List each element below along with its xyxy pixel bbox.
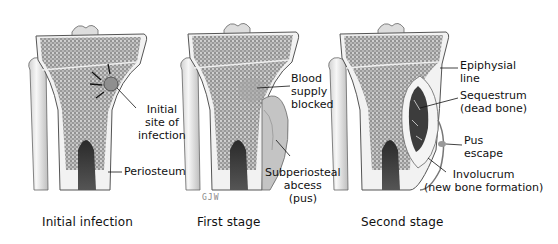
label-blood-supply: Blood supply blocked — [291, 72, 334, 111]
label-line: Pus — [464, 134, 503, 147]
label-line: Initial — [138, 103, 186, 116]
caption-second-stage: Second stage — [361, 215, 444, 229]
osteomyelitis-illustration — [0, 0, 558, 244]
panel-second-bone — [329, 23, 462, 190]
label-line: site of — [138, 116, 186, 129]
label-line: Subperiosteal — [265, 166, 341, 179]
caption-initial-infection: Initial infection — [42, 215, 133, 229]
label-line: Blood — [291, 72, 334, 85]
label-sequestrum: Sequestrum (dead bone) — [460, 89, 527, 115]
label-periosteum: Periosteum — [124, 165, 186, 178]
label-line: abcess — [265, 179, 341, 192]
label-line: blocked — [291, 98, 334, 111]
panel-first-bone — [181, 23, 299, 190]
label-initial-site: Initial site of infection — [138, 103, 186, 142]
label-line: Epiphysial — [460, 59, 516, 72]
label-line: Sequestrum — [460, 89, 527, 102]
label-subperiosteal-abscess: Subperiosteal abcess (pus) — [265, 166, 341, 205]
caption-first-stage: First stage — [197, 215, 260, 229]
label-line: infection — [138, 129, 186, 142]
label-pus-escape: Pus escape — [464, 134, 503, 160]
label-line: escape — [464, 147, 503, 160]
artist-signature: GJW — [202, 193, 219, 202]
label-line: Involucrum — [424, 168, 543, 181]
label-involucrum: Involucrum (new bone formation) — [424, 168, 543, 194]
label-line: (dead bone) — [460, 102, 527, 115]
label-line: line — [460, 72, 516, 85]
label-epiphysial-line: Epiphysial line — [460, 59, 516, 85]
label-line: (new bone formation) — [424, 181, 543, 194]
label-line: (pus) — [265, 192, 341, 205]
label-line: supply — [291, 85, 334, 98]
